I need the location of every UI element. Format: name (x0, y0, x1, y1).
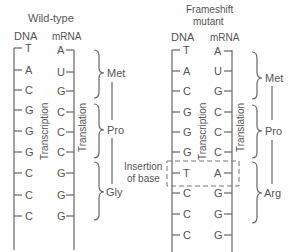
mrna-base: A (214, 45, 222, 57)
codon-label-arg: Arg (264, 187, 281, 199)
mutant-mrna-bases: A U G C C C A G G G (214, 45, 223, 241)
codon-label-pro: Pro (107, 124, 124, 136)
dna-base: T (25, 42, 32, 54)
mrna-base: C (214, 106, 222, 118)
mutant-transcription-label: Transcription (197, 103, 208, 160)
mrna-base: G (214, 229, 223, 241)
dna-base: C (183, 187, 191, 199)
mutant-dna-header: DNA (171, 31, 195, 43)
mrna-base: U (214, 65, 222, 77)
dna-base: G (183, 106, 192, 118)
dna-base-inserted: T (183, 167, 190, 179)
dna-base: C (183, 229, 191, 241)
codon-label-pro: Pro (265, 125, 282, 137)
dna-base: A (25, 64, 33, 76)
dna-base: A (183, 65, 191, 77)
mrna-base: G (214, 208, 223, 220)
insertion-label-line1: Insertion (124, 161, 162, 172)
mrna-base: C (214, 146, 222, 158)
dna-base: C (25, 189, 33, 201)
mrna-base: G (57, 167, 66, 179)
insertion-label-line2: of base (127, 173, 160, 184)
dna-base: G (183, 146, 192, 158)
wild-type-dna-bases: T A C G G G C C C (25, 42, 34, 222)
dna-base: G (183, 126, 192, 138)
mutant-title-line2: mutant (193, 16, 224, 27)
dna-base: G (25, 104, 34, 116)
mrna-base: G (214, 85, 223, 97)
wild-type-mrna-header: mRNA (52, 31, 82, 42)
dna-base: G (25, 146, 34, 158)
mrna-base: C (57, 106, 65, 118)
dna-base: G (25, 125, 34, 137)
dna-base: C (183, 208, 191, 220)
dna-base: C (25, 84, 33, 96)
codon-label-met: Met (107, 67, 125, 79)
mrna-base: A (57, 44, 65, 56)
dna-base: T (183, 44, 190, 56)
mrna-base: C (214, 126, 222, 138)
codon-label-met: Met (265, 72, 283, 84)
wild-type-translation-label: Translation (77, 103, 88, 152)
wild-type-mrna-bases: A U G C C C G G G (57, 44, 66, 222)
mutant-title-line1: Frameshift (186, 4, 233, 15)
mrna-base: G (57, 189, 66, 201)
mrna-base: C (57, 146, 65, 158)
mrna-base: G (57, 85, 66, 97)
codon-label-gly: Gly (106, 186, 123, 198)
wild-type-title: Wild-type (28, 12, 74, 24)
mrna-base: G (214, 187, 223, 199)
frameshift-mutation-diagram: Wild-type DNA mRNA T A C G G G C C C A U… (0, 0, 291, 252)
wild-type-dna-header: DNA (14, 30, 38, 42)
wild-type-transcription-label: Transcription (39, 103, 50, 160)
mutant-mrna-header: mRNA (210, 32, 240, 43)
mrna-base: G (57, 210, 66, 222)
mutant-translation-label: Translation (235, 103, 246, 152)
mrna-base-inserted: A (214, 167, 222, 179)
dna-base: C (183, 85, 191, 97)
dna-base: C (25, 210, 33, 222)
mutant-dna-bases: T A C G G G T C C C (183, 44, 192, 241)
mrna-base: U (57, 66, 65, 78)
mrna-base: C (57, 126, 65, 138)
dna-base: C (25, 167, 33, 179)
